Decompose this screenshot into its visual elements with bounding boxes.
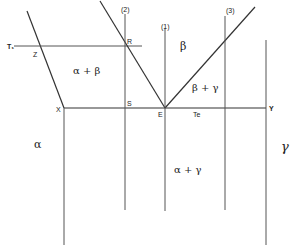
region-alpha-gamma: α + γ: [174, 164, 201, 175]
label-z: Z: [33, 51, 38, 58]
label-r: R: [127, 38, 132, 45]
label-line-1: (1): [161, 23, 170, 31]
label-e: E: [158, 111, 163, 118]
label-te: Te: [193, 111, 201, 118]
region-gamma: γ: [281, 139, 289, 154]
label-y: Y: [269, 105, 274, 112]
region-beta: β: [180, 40, 186, 53]
region-beta-gamma: β + γ: [192, 82, 219, 93]
beta-left-boundary-line: [100, 1, 165, 108]
label-x: X: [56, 106, 61, 113]
region-alpha: α: [34, 138, 42, 151]
region-alpha-beta: α + β: [73, 65, 100, 76]
label-line-2: (2): [121, 6, 130, 14]
label-s: S: [127, 100, 132, 107]
label-t1: T₁: [7, 43, 14, 50]
alpha-solvus-line: [27, 11, 64, 108]
phase-diagram: T₁ Z R S X E Te Y (2) (1) (3) α + β β β …: [0, 0, 297, 251]
label-line-3: (3): [226, 7, 235, 15]
